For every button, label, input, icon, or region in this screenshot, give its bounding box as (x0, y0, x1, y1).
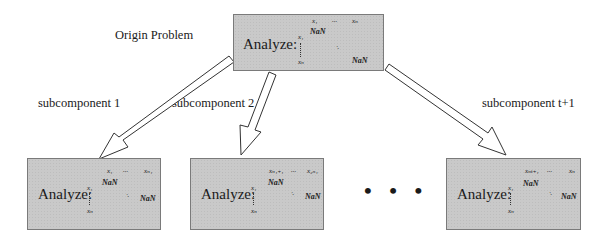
analyze-label: Analyze: (457, 186, 511, 203)
row-ellipsis: ... (123, 166, 128, 174)
diag-ellipsis: ·. (126, 191, 128, 199)
subcomponent-t1-box: Analyze: xₙₜ₊₁ ... xₙ x₁ xₙ NaN ·. NaN (446, 158, 581, 230)
col-dots (510, 193, 511, 205)
col-dots (253, 193, 254, 205)
col-last: xₙ (87, 207, 93, 215)
analyze-label: Analyze: (201, 186, 255, 203)
col-last: xₙ (298, 58, 304, 66)
row-first: x₁ (107, 167, 113, 175)
col-dots (300, 43, 301, 57)
col-dots (89, 193, 90, 205)
row-first: xₙₜ₊₁ (525, 167, 539, 175)
row-last: x₂ₙ₁ (307, 167, 318, 175)
diag-ellipsis: ·. (336, 43, 338, 51)
nan-top: NaN (268, 178, 284, 187)
row-ellipsis: ... (547, 166, 552, 174)
row-first: x₁ (312, 17, 318, 25)
more-subcomponents-ellipsis: • • • (364, 178, 428, 204)
row-ellipsis: ... (291, 166, 296, 174)
nan-bottom: NaN (140, 194, 156, 203)
analyze-label: Analyze: (38, 186, 92, 203)
col-last: xₙ (251, 207, 257, 215)
row-last: xₙ (352, 17, 358, 25)
col-first: x₁ (251, 184, 257, 192)
nan-top: NaN (102, 178, 118, 187)
subcomponent-1-box: Analyze: x₁ ... xₙ₁ x₁ xₙ NaN ·. NaN (27, 158, 161, 230)
diag-ellipsis: ·. (549, 189, 551, 197)
row-last: xₙ (569, 167, 575, 175)
diag-ellipsis: ·. (291, 189, 293, 197)
origin-analyze-box: Analyze: x₁ ... xₙ x₁ xₙ NaN ·. NaN (233, 14, 384, 71)
row-ellipsis: ... (332, 16, 337, 24)
nan-bottom: NaN (561, 192, 577, 201)
col-last: xₙ (508, 207, 514, 215)
row-last: xₙ₁ (144, 167, 152, 175)
analyze-label: Analyze: (243, 36, 297, 53)
col-first: x₁ (298, 33, 304, 41)
row-first: xₙ₁₊₁ (269, 167, 284, 175)
subcomponent-2-box: Analyze: xₙ₁₊₁ ... x₂ₙ₁ x₁ xₙ NaN ·. NaN (190, 158, 324, 230)
col-first: x₁ (87, 184, 93, 192)
arrow-to-subcomponent-2 (240, 72, 276, 155)
nan-bottom: NaN (352, 56, 368, 65)
arrow-to-subcomponent-t1 (385, 64, 506, 155)
nan-bottom: NaN (305, 192, 321, 201)
col-first: x₁ (508, 184, 514, 192)
arrow-to-subcomponent-1 (99, 56, 234, 159)
nan-top: NaN (523, 179, 539, 188)
nan-top: NaN (310, 27, 326, 36)
